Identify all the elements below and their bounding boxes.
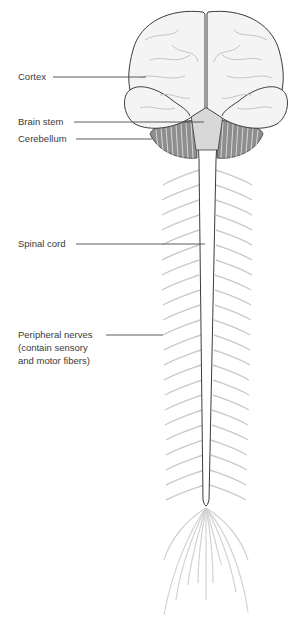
spinal-cord-label: Spinal cord bbox=[18, 238, 66, 251]
peripheral-nerves-label: Peripheral nerves bbox=[18, 329, 92, 342]
nervous-system-diagram: Cortex Brain stem Cerebellum Spinal cord… bbox=[0, 0, 299, 631]
cerebellum-label: Cerebellum bbox=[18, 133, 67, 146]
peripheral-nerves-left bbox=[162, 170, 204, 500]
peripheral-nerves-label-line3: and motor fibers) bbox=[18, 355, 90, 368]
cauda-equina bbox=[164, 508, 248, 615]
anatomy-illustration bbox=[0, 0, 299, 631]
brain-stem-label: Brain stem bbox=[18, 116, 63, 129]
spinal-cord-shape bbox=[198, 140, 217, 506]
cortex-label: Cortex bbox=[18, 71, 46, 84]
peripheral-nerves-label-line2: (contain sensory bbox=[18, 342, 88, 355]
peripheral-nerves-right bbox=[210, 170, 252, 500]
